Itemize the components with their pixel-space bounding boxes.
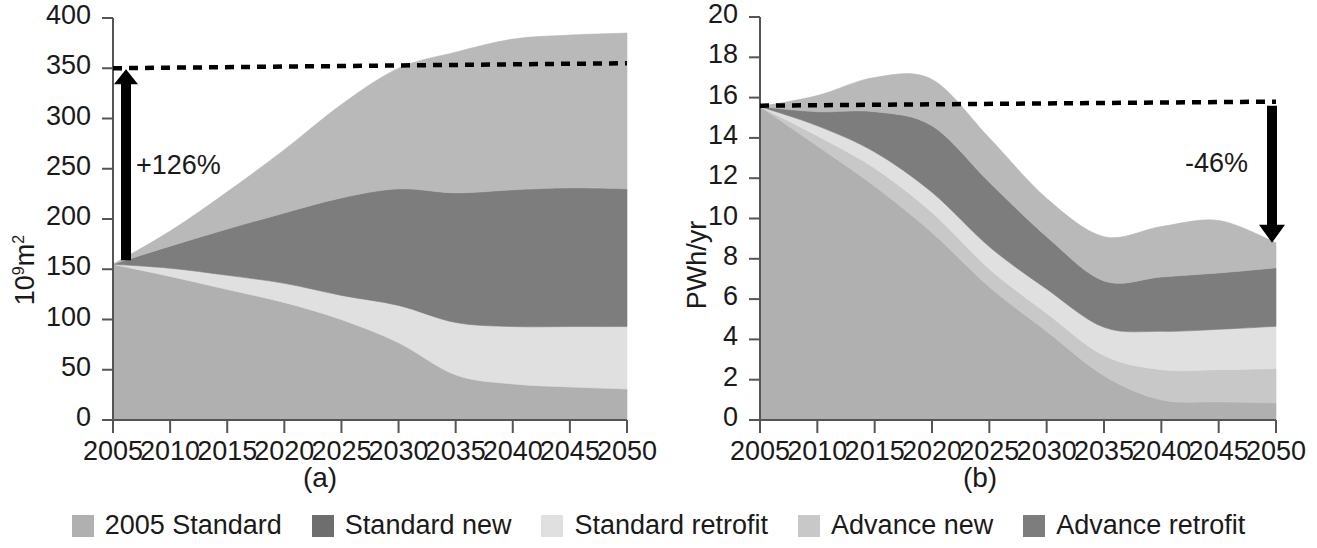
y-axis-tick-label: 6: [650, 281, 738, 312]
legend-swatch-icon: [312, 515, 334, 537]
annotation-arrow: [114, 69, 138, 260]
legend-item-label: Standard new: [345, 510, 512, 541]
y-axis-tick-label: 0: [650, 402, 738, 433]
y-axis-tick-label: 200: [3, 201, 91, 232]
legend-item-label: Advance retrofit: [1056, 510, 1245, 541]
y-axis-tick-label: 250: [3, 151, 91, 182]
figure-container: 109m2 +126% (a) 050100150200250300350400…: [0, 0, 1317, 548]
y-axis-tick-label: 50: [3, 352, 91, 383]
legend-item: 2005 Standard: [72, 510, 282, 541]
y-axis-tick-label: 10: [650, 201, 738, 232]
chart-b-annotation: -46%: [1185, 148, 1248, 179]
y-axis-tick-label: 4: [650, 321, 738, 352]
legend-item: Standard new: [312, 510, 512, 541]
y-axis-tick-label: 0: [3, 402, 91, 433]
y-axis-tick-label: 8: [650, 241, 738, 272]
legend-swatch-icon: [72, 515, 94, 537]
y-axis-tick-label: 350: [3, 50, 91, 81]
x-axis-tick-label: 2050: [1236, 436, 1316, 467]
legend-item-label: Standard retrofit: [574, 510, 768, 541]
legend-item: Advance new: [798, 510, 993, 541]
chart-a-annotation: +126%: [136, 150, 221, 181]
annotation-arrow: [1259, 106, 1285, 243]
y-axis-tick-label: 150: [3, 251, 91, 282]
y-axis-tick-label: 16: [650, 80, 738, 111]
y-axis-tick-label: 14: [650, 120, 738, 151]
legend-item-label: Advance new: [831, 510, 993, 541]
y-axis-tick-label: 20: [650, 0, 738, 30]
legend-swatch-icon: [1023, 515, 1045, 537]
y-axis-tick-label: 300: [3, 101, 91, 132]
y-axis-tick-label: 2: [650, 362, 738, 393]
chart-panel-b: PWh/yr -46% (b) 024681012141618202005201…: [660, 0, 1317, 500]
legend-item-label: 2005 Standard: [105, 510, 282, 541]
y-axis-tick-label: 400: [3, 0, 91, 31]
y-axis-tick-label: 100: [3, 302, 91, 333]
legend-swatch-icon: [541, 515, 563, 537]
chart-panel-a: 109m2 +126% (a) 050100150200250300350400…: [0, 0, 660, 500]
x-axis-tick-label: 2050: [587, 436, 667, 467]
chart-a-svg: [0, 0, 660, 500]
y-axis-tick-label: 18: [650, 39, 738, 70]
legend-item: Standard retrofit: [541, 510, 768, 541]
legend-item: Advance retrofit: [1023, 510, 1245, 541]
chart-b-svg: [660, 0, 1317, 500]
chart-legend: 2005 StandardStandard newStandard retrof…: [0, 503, 1317, 548]
y-axis-tick-label: 12: [650, 160, 738, 191]
legend-swatch-icon: [798, 515, 820, 537]
